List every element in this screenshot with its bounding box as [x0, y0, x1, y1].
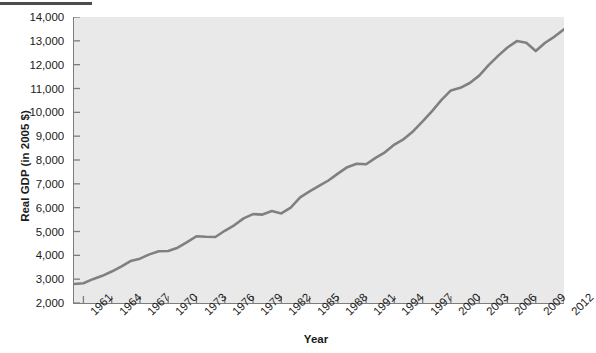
x-axis-tick-label: 1991: [371, 291, 398, 318]
x-axis-title-text: Year: [304, 333, 328, 345]
x-axis-tick-label: 1964: [117, 291, 144, 318]
x-axis-tick-label: 2009: [541, 291, 568, 318]
x-axis-tick-label: 2000: [456, 291, 483, 318]
x-axis-tick-label: 1997: [428, 291, 455, 318]
x-axis-tick-label: 1985: [315, 291, 342, 318]
x-axis-title: Year: [0, 333, 586, 345]
x-axis-tick-label: 1994: [399, 291, 426, 318]
x-axis-tick-label: 1973: [202, 291, 229, 318]
x-axis-tick-label: 1982: [286, 291, 313, 318]
x-axis-tick-label: 1988: [343, 291, 370, 318]
x-axis-tick-label: 2003: [484, 291, 511, 318]
x-axis-tick-label: 2012: [569, 291, 596, 318]
x-axis-tick-label: 1970: [173, 291, 200, 318]
x-axis-tick-label: 1979: [258, 291, 285, 318]
x-axis-tick-label: 1976: [230, 291, 257, 318]
x-axis-tick-label: 2006: [512, 291, 539, 318]
x-axis-tick-label: 1961: [88, 291, 115, 318]
x-axis-tick-label: 1967: [145, 291, 172, 318]
